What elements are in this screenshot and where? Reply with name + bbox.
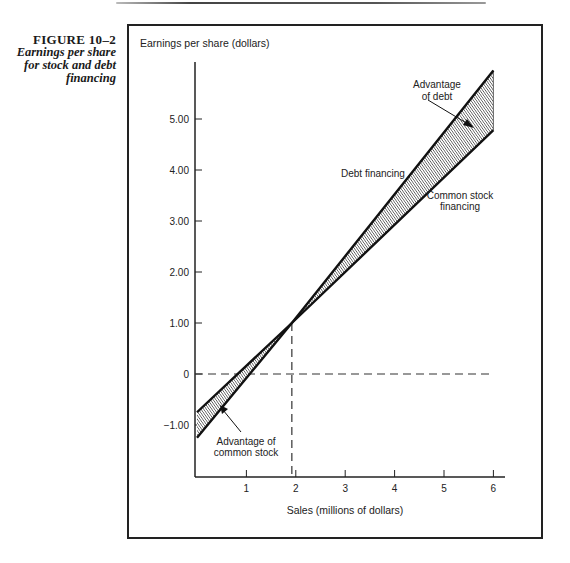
y-axis-title: Earnings per share (dollars): [140, 37, 270, 49]
label-debt-financing: Debt financing: [341, 168, 405, 179]
arrow-advantage-stock: [223, 410, 241, 432]
annotation-advantage-stock-line1: Advantage of: [217, 436, 276, 447]
y-tick-label: 5.00: [170, 114, 190, 125]
label-common-stock-line1: Common stock: [427, 190, 495, 201]
y-tick-label: −1.00: [164, 420, 190, 431]
annotation-advantage-stock-line2: common stock: [214, 447, 279, 458]
y-tick-label: 4.00: [170, 165, 190, 176]
x-tick-label: 1: [244, 483, 250, 494]
annotation-advantage-debt-line2: of debt: [422, 91, 453, 102]
label-common-stock-line2: financing: [440, 201, 480, 212]
plot-area: −1.0001.002.003.004.005.00123456: [164, 62, 505, 494]
x-tick-label: 2: [293, 483, 299, 494]
y-tick-label: 0: [183, 369, 189, 380]
chart: Earnings per share (dollars) −1.0001.002…: [0, 0, 570, 563]
y-tick-label: 3.00: [170, 216, 190, 227]
x-tick-label: 3: [342, 483, 348, 494]
annotation-advantage-debt-line1: Advantage: [413, 79, 461, 90]
x-tick-label: 4: [392, 483, 398, 494]
y-tick-label: 2.00: [170, 267, 190, 278]
line-debt-financing: [197, 71, 493, 438]
x-axis-title: Sales (millions of dollars): [287, 504, 404, 516]
y-tick-label: 1.00: [170, 318, 190, 329]
x-tick-label: 5: [441, 483, 447, 494]
x-tick-label: 6: [491, 483, 497, 494]
